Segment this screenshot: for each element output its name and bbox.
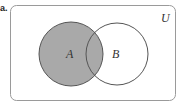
set-a-label: A bbox=[65, 47, 74, 61]
set-b-label: B bbox=[112, 47, 120, 61]
universe-label: U bbox=[161, 11, 171, 25]
venn-diagram: U A B bbox=[0, 0, 179, 102]
